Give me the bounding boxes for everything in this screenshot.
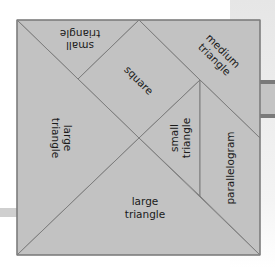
svg-text:triangle: triangle bbox=[50, 118, 62, 158]
svg-text:large: large bbox=[132, 195, 159, 207]
svg-text:triangle: triangle bbox=[180, 118, 192, 158]
svg-text:small: small bbox=[168, 124, 180, 152]
svg-text:small: small bbox=[66, 40, 94, 52]
svg-text:triangle: triangle bbox=[125, 208, 165, 220]
tangram-diagram: small triangle square medium triangle la… bbox=[0, 0, 275, 268]
svg-text:parallelogram: parallelogram bbox=[224, 131, 236, 204]
label-parallelogram: parallelogram bbox=[224, 131, 236, 204]
svg-text:triangle: triangle bbox=[60, 28, 100, 40]
svg-text:large: large bbox=[62, 125, 74, 152]
